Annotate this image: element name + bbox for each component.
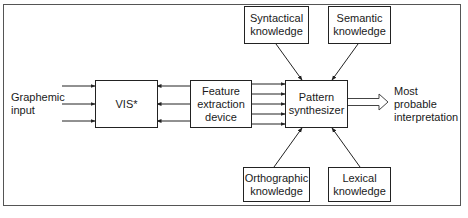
node-label-line: Orthographic (245, 172, 309, 185)
pattern-synthesizer-node: Pattern synthesizer (285, 80, 348, 128)
feature-extraction-node: Feature extraction device (190, 80, 252, 128)
input-label-line: Graphemic (11, 91, 65, 104)
node-label-line: extraction (197, 98, 245, 111)
node-label-line: Lexical (333, 172, 386, 185)
output-label-line: probable (394, 98, 458, 111)
semantic-knowledge-node: Semantic knowledge (328, 6, 391, 44)
node-label-line: synthesizer (289, 104, 345, 117)
syntactical-knowledge-node: Syntactical knowledge (244, 6, 309, 44)
node-label-line: Syntactical (250, 12, 303, 25)
vis-node-label: VIS* (115, 98, 137, 111)
node-label-line: Feature (197, 85, 245, 98)
lexical-knowledge-node: Lexical knowledge (328, 167, 391, 202)
output-label-line: interpretation (394, 111, 458, 124)
node-label-line: knowledge (250, 25, 303, 38)
node-label-line: knowledge (333, 25, 386, 38)
vis-node: VIS* (95, 80, 158, 128)
node-label-line: knowledge (245, 185, 309, 198)
output-label-line: Most (394, 85, 458, 98)
graphemic-input-label: Graphemic input (11, 91, 65, 117)
node-label-line: device (197, 111, 245, 124)
node-label-line: Semantic (333, 12, 386, 25)
node-label-line: knowledge (333, 185, 386, 198)
orthographic-knowledge-node: Orthographic knowledge (243, 167, 310, 202)
node-label-line: Pattern (289, 91, 345, 104)
input-label-line: input (11, 104, 65, 117)
output-label: Most probable interpretation (394, 85, 458, 124)
